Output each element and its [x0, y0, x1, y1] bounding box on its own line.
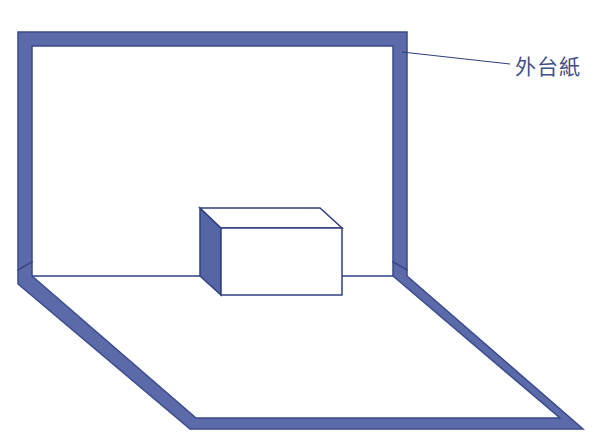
diagram-canvas: 外台紙 [0, 0, 610, 441]
pop-up-box [200, 208, 342, 295]
label-leader-line [402, 52, 510, 64]
outer-board-label: 外台紙 [515, 50, 581, 80]
